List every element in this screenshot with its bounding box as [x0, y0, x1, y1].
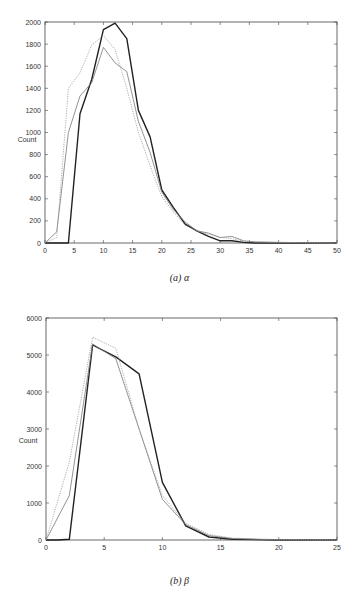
chart-a-x-tick-label: 40	[275, 247, 283, 254]
chart-a-y-tick-label: 1000	[25, 129, 41, 136]
caption-b: (b) β	[0, 575, 359, 586]
chart-a-x-tick-label: 25	[187, 247, 195, 254]
chart-b-y-tick-label: 5000	[26, 352, 42, 359]
chart-a-y-axis-label: Count	[18, 136, 37, 143]
caption-a: (a) α	[0, 272, 359, 283]
chart-a-y-tick-label: 600	[29, 173, 41, 180]
chart-a-y-tick-label: 2000	[25, 19, 41, 26]
chart-b-y-axis-label: Count	[19, 437, 38, 444]
chart-a-y-tick-label: 0	[37, 240, 41, 247]
chart-a-x-tick-label: 5	[72, 247, 76, 254]
chart-a-x-tick-label: 30	[216, 247, 224, 254]
chart-a-plot-frame	[45, 22, 337, 243]
chart-b-x-tick-label: 5	[102, 544, 106, 551]
chart-a-series-dark-solid	[45, 23, 337, 243]
chart-b-x-tick-label: 15	[217, 544, 225, 551]
chart-b-y-tick-label: 2000	[26, 463, 42, 470]
chart-b-y-tick-label: 1000	[26, 500, 42, 507]
chart-a-x-tick-label: 20	[158, 247, 166, 254]
chart-a-y-tick-label: 1400	[25, 85, 41, 92]
chart-a-y-tick-label: 400	[29, 195, 41, 202]
chart-b-y-tick-label: 3000	[26, 426, 42, 433]
chart-a-y-tick-label: 200	[29, 217, 41, 224]
chart-a-x-tick-label: 45	[304, 247, 312, 254]
chart-a-x-tick-label: 0	[43, 247, 47, 254]
chart-b-y-tick-label: 6000	[26, 315, 42, 322]
chart-b-x-tick-label: 10	[159, 544, 167, 551]
chart-a-y-tick-label: 800	[29, 151, 41, 158]
chart-b-y-tick-label: 4000	[26, 389, 42, 396]
chart-a-y-tick-label: 1800	[25, 41, 41, 48]
chart-b-series-dark-solid	[46, 345, 337, 540]
chart-b-plot-frame	[46, 318, 337, 540]
chart-a-x-tick-label: 50	[333, 247, 341, 254]
chart-a-series-gray-solid	[45, 47, 337, 243]
chart-b-x-tick-label: 20	[275, 544, 283, 551]
chart-a-x-tick-label: 35	[246, 247, 254, 254]
chart-b-y-tick-label: 0	[38, 537, 42, 544]
chart-b-x-tick-label: 25	[333, 544, 341, 551]
chart-a-series-dotted	[45, 35, 337, 243]
chart-b-x-tick-label: 0	[44, 544, 48, 551]
chart-a-y-tick-label: 1600	[25, 63, 41, 70]
figure: 0510152025303540455002004006008001000120…	[0, 0, 359, 606]
chart-a-x-tick-label: 15	[129, 247, 137, 254]
chart-a-y-tick-label: 1200	[25, 107, 41, 114]
chart-a-x-tick-label: 10	[100, 247, 108, 254]
